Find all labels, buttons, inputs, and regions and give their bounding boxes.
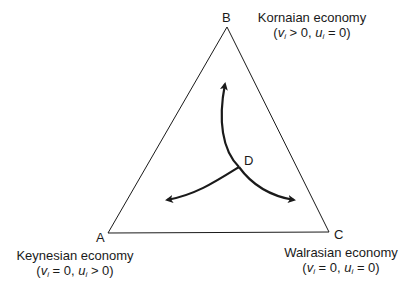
kornaian-condition: (vi > 0, ui = 0) <box>245 25 379 44</box>
vertex-b-label: B <box>222 10 231 25</box>
vertex-c-label: C <box>334 227 343 242</box>
point-d-label: D <box>244 153 253 168</box>
walrasian-name: Walrasian economy <box>277 245 405 260</box>
keynesian-economy-label: Keynesian economy (vi = 0, ui > 0) <box>14 248 136 282</box>
arrow-to-b <box>222 84 239 167</box>
triangle-outline <box>108 27 329 233</box>
walrasian-condition: (vi = 0, ui = 0) <box>277 260 405 279</box>
arrow-to-a <box>167 167 239 200</box>
kornaian-economy-label: Kornaian economy (vi > 0, ui = 0) <box>245 10 379 44</box>
keynesian-name: Keynesian economy <box>14 248 136 263</box>
keynesian-condition: (vi = 0, ui > 0) <box>14 263 136 282</box>
walrasian-economy-label: Walrasian economy (vi = 0, ui = 0) <box>277 245 405 279</box>
vertex-a-label: A <box>96 230 105 245</box>
arrow-to-c <box>239 167 294 200</box>
kornaian-name: Kornaian economy <box>245 10 379 25</box>
